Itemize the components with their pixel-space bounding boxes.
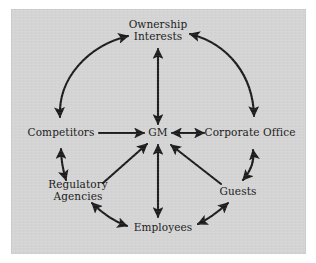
- node-regulatory-agencies-line-1: Regulatory: [48, 179, 108, 191]
- edge-guests-employees: [198, 203, 228, 224]
- node-gm-label: GM: [148, 127, 167, 139]
- node-regulatory-agencies-line-2: Agencies: [48, 190, 108, 202]
- node-employees-label: Employees: [134, 222, 193, 234]
- node-competitors[interactable]: Competitors: [28, 127, 95, 139]
- edge-employees-regulatory: [92, 203, 127, 226]
- edge-regulatory-gm: [103, 144, 147, 183]
- node-gm[interactable]: GM: [148, 127, 167, 139]
- node-corporate-office-label: Corporate Office: [205, 127, 296, 139]
- node-guests[interactable]: Guests: [220, 186, 257, 198]
- diagram-canvas: Ownership Interests Competitors GM Corpo…: [0, 0, 316, 263]
- node-competitors-label: Competitors: [28, 127, 95, 139]
- node-ownership-interests-line-2: Interests: [129, 30, 188, 42]
- edge-regulatory-competitors: [61, 149, 66, 180]
- node-ownership-interests[interactable]: Ownership Interests: [129, 19, 188, 42]
- node-employees[interactable]: Employees: [134, 222, 193, 234]
- node-corporate-office[interactable]: Corporate Office: [205, 127, 296, 139]
- edge-competitors-ownership: [60, 36, 128, 117]
- edge-guests-gm: [171, 145, 221, 184]
- edge-corporate-office-guests: [243, 150, 253, 180]
- edge-ownership-corporate-office: [190, 34, 254, 116]
- node-regulatory-agencies[interactable]: Regulatory Agencies: [48, 179, 108, 202]
- node-guests-label: Guests: [220, 186, 257, 198]
- node-ownership-interests-line-1: Ownership: [129, 19, 188, 31]
